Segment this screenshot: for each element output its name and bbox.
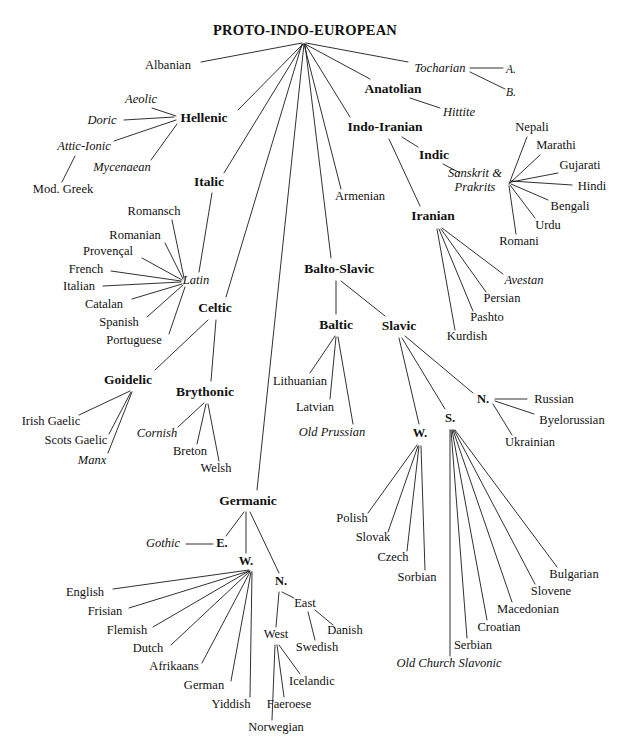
tree-node-swedish: Swedish	[296, 641, 338, 654]
tree-node-urdu: Urdu	[535, 219, 561, 232]
tree-node-romanian: Romanian	[109, 229, 160, 242]
tree-edge-germanic-to-germanic_e	[226, 512, 244, 536]
tree-node-icelandic: Icelandic	[289, 675, 335, 688]
tree-node-armenian: Armenian	[335, 190, 385, 203]
tree-node-sanskrit-prakrits-line1: Sanskrit &	[448, 166, 502, 180]
tree-edge-root-to-balto_slavic	[305, 44, 331, 258]
tree-node-ukrainian: Ukrainian	[505, 436, 555, 449]
tree-edge-ngerm_west-to-faeroese	[277, 645, 284, 697]
tree-node-latvian: Latvian	[296, 401, 334, 414]
tree-edge-manx-to-goidelic	[108, 392, 132, 453]
tree-node-italic: Italic	[194, 175, 224, 189]
tree-edge-iranian-to-avestan	[442, 228, 503, 274]
tree-node-doric: Doric	[87, 114, 116, 127]
tree-edge-root-to-anatolian	[305, 44, 370, 79]
tree-node-danish: Danish	[327, 624, 362, 637]
tree-node-romani: Romani	[499, 235, 539, 248]
tree-node-provencal: Provençal	[83, 245, 133, 258]
tree-edge-bulgarian-to-slavic_s	[455, 430, 557, 567]
tree-node-hellenic: Hellenic	[180, 111, 227, 125]
tree-node-frisian: Frisian	[88, 605, 123, 618]
tree-edge-sanskrit_prakrits-to-hindi	[511, 181, 572, 185]
tree-node-persian: Persian	[484, 292, 521, 305]
tree-node-italian: Italian	[63, 280, 95, 293]
tree-edge-root-to-armenian	[304, 44, 341, 189]
tree-edge-croatian-to-slavic_s	[452, 430, 487, 620]
tree-edge-sanskrit_prakrits-to-romani	[509, 186, 516, 234]
tree-node-mycenaean: Mycenaean	[93, 161, 151, 174]
tree-edge-cornish-to-brythonic	[178, 403, 204, 427]
tree-node-slavic-w: W.	[413, 427, 427, 440]
tree-node-afrikaans: Afrikaans	[149, 660, 198, 673]
tree-edge-lithuanian-to-baltic	[310, 336, 335, 373]
tree-node-baltic: Baltic	[319, 318, 353, 332]
tree-node-hindi: Hindi	[578, 180, 606, 193]
tree-edge-latvian-to-baltic	[330, 337, 336, 399]
tree-node-gothic: Gothic	[146, 537, 180, 550]
tree-node-indic: Indic	[419, 148, 449, 162]
tree-node-old-prussian: Old Prussian	[299, 426, 365, 439]
tree-edge-yiddish-to-germanic_w	[250, 572, 252, 697]
tree-node-avestan: Avestan	[505, 274, 544, 287]
tree-edge-mycenaean-to-hellenic	[151, 124, 177, 160]
tree-edge-breton-to-brythonic	[197, 404, 206, 444]
tree-edge-germanic-to-germanic_n	[250, 512, 279, 573]
tree-edge-celtic-to-goidelic	[155, 320, 208, 370]
tree-edge-iranian-to-kurdish	[437, 229, 455, 330]
tree-edge-romanian-to-latin	[165, 243, 183, 279]
tree-node-ngerm-west: West	[264, 628, 289, 641]
tree-edge-slavic-to-slavic_w	[399, 338, 419, 424]
tree-edge-root-to-hellenic	[238, 44, 303, 110]
tree-edge-scots_gaelic-to-goidelic	[109, 392, 131, 434]
tree-node-czech: Czech	[377, 551, 408, 564]
tree-node-nepali: Nepali	[515, 121, 548, 134]
tree-node-catalan: Catalan	[85, 298, 123, 311]
tree-node-germanic-e: E.	[216, 537, 227, 550]
tree-node-attic-ionic: Attic-Ionic	[57, 140, 110, 153]
tree-edge-sanskrit_prakrits-to-bengali	[511, 184, 548, 200]
tree-edge-old_prussian-to-baltic	[338, 337, 353, 424]
indo-european-family-tree: PROTO-INDO-EUROPEANAlbanianTocharianA.B.…	[0, 0, 632, 756]
tree-node-lithuanian: Lithuanian	[273, 375, 327, 388]
tree-edge-provencal-to-latin	[142, 258, 182, 280]
tree-node-macedonian: Macedonian	[497, 603, 559, 616]
tree-node-tocharian-b: B.	[506, 86, 516, 98]
tree-edge-root-to-italic	[224, 44, 303, 173]
tree-edge-italian-to-latin	[103, 282, 181, 286]
tree-node-welsh: Welsh	[201, 462, 232, 475]
tree-node-yiddish: Yiddish	[212, 698, 251, 711]
tree-node-flemish: Flemish	[107, 624, 147, 637]
tree-node-faeroese: Faeroese	[267, 698, 311, 711]
tree-node-croatian: Croatian	[477, 621, 520, 634]
tree-edge-root-to-indo_iranian	[305, 44, 350, 117]
tree-node-bengali: Bengali	[551, 200, 590, 213]
tree-edge-czech-to-slavic_w	[407, 446, 419, 551]
tree-node-scots-gaelic: Scots Gaelic	[45, 434, 108, 447]
tree-edge-polish-to-slavic_w	[368, 445, 417, 513]
tree-node-dutch: Dutch	[133, 642, 164, 655]
tree-edge-aeolic-to-hellenic	[152, 108, 176, 116]
tree-node-brythonic: Brythonic	[176, 385, 234, 399]
tree-edge-italic-to-latin	[199, 193, 212, 272]
tree-edge-german-to-germanic_w	[231, 572, 251, 681]
tree-edge-portuguese-to-latin	[169, 287, 185, 334]
tree-node-sanskrit-prakrits: Sanskrit &Prakrits	[448, 166, 502, 195]
tree-edge-dutch-to-germanic_w	[171, 571, 250, 645]
tree-node-germanic-n: N.	[275, 575, 287, 588]
tree-node-old-church-slavonic: Old Church Slavonic	[396, 657, 501, 670]
tree-edge-english-to-germanic_w	[113, 570, 249, 589]
tree-edge-sanskrit_prakrits-to-marathi	[510, 155, 540, 183]
tree-node-cornish: Cornish	[137, 427, 177, 440]
tree-node-balto-slavic: Balto-Slavic	[304, 262, 374, 276]
tree-edge-macedonian-to-slavic_s	[453, 430, 512, 602]
tree-node-sorbian: Sorbian	[398, 571, 437, 584]
tree-node-irish-gaelic: Irish Gaelic	[22, 415, 81, 428]
tree-edge-slavic-to-slavic_n	[405, 336, 473, 393]
tree-edge-root-to-celtic	[226, 44, 302, 297]
tree-edge-welsh-to-brythonic	[208, 404, 219, 461]
tree-node-manx: Manx	[78, 454, 106, 467]
tree-node-gujarati: Gujarati	[560, 159, 601, 172]
tree-edge-sanskrit_prakrits-to-nepali	[509, 137, 527, 184]
tree-node-germanic-w: W.	[239, 555, 253, 568]
tree-edge-root-to-albanian	[201, 43, 302, 62]
